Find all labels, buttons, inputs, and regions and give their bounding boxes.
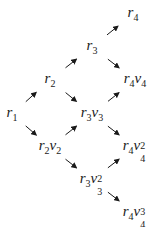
node-variable: v xyxy=(50,137,57,153)
node-variable-superscript: 2 xyxy=(97,174,102,184)
arrows-layer xyxy=(0,0,159,227)
arrow-r3-to-r4-icon xyxy=(107,26,118,35)
node-base-subscript: 3 xyxy=(92,45,97,56)
edge-group xyxy=(26,26,119,201)
arrow-r2v2-to-r3v3_2-icon xyxy=(66,159,77,168)
node-r1: r1 xyxy=(7,105,18,123)
arrow-r3v3_2-to-r4v4_2-icon xyxy=(108,159,119,168)
node-variable: v xyxy=(91,170,98,186)
arrow-r3v3-to-r4v4_2-icon xyxy=(108,126,119,135)
node-variable-subscript: 2 xyxy=(56,145,61,156)
node-base-subscript: 1 xyxy=(12,112,17,123)
node-variable: v xyxy=(92,104,99,120)
node-r4: r4 xyxy=(128,5,139,23)
node-base-subscript: 2 xyxy=(50,78,55,89)
arrow-r3-to-r4v4-icon xyxy=(108,59,119,68)
node-variable-subscript: 3 xyxy=(98,112,103,123)
node-r3: r3 xyxy=(87,38,98,56)
arrow-r2-to-r3-icon xyxy=(66,59,77,68)
node-variable: v xyxy=(135,70,142,86)
node-variable: v xyxy=(134,203,141,219)
arrow-r1-to-r2-icon xyxy=(26,92,36,101)
arrow-r2-to-r3v3-icon xyxy=(66,93,77,102)
node-variable-subscript: 4 xyxy=(140,154,145,164)
arrow-r1-to-r2v2-icon xyxy=(26,126,37,135)
node-r2v2: r2v2 xyxy=(39,138,62,156)
node-variable-superscript: 3 xyxy=(140,207,145,217)
node-r4v4: r4v4 xyxy=(124,71,147,89)
arrow-r2v2-to-r3v3-icon xyxy=(66,126,77,135)
arrow-r3v3_2-to-r4v4_3-icon xyxy=(108,192,119,201)
node-r3v3_2: r3v23 xyxy=(80,171,105,189)
node-variable-subscript: 3 xyxy=(97,187,102,197)
node-r4v4_3: r4v34 xyxy=(123,204,148,222)
node-r3v3: r3v3 xyxy=(81,105,104,123)
node-r4v4_2: r4v24 xyxy=(123,138,148,156)
node-r2: r2 xyxy=(45,71,56,89)
arrow-r3v3-to-r4v4-icon xyxy=(108,93,119,102)
node-variable: v xyxy=(134,137,141,153)
node-variable-superscript: 2 xyxy=(140,141,145,151)
node-variable-subscript: 4 xyxy=(140,220,145,227)
node-base-subscript: 4 xyxy=(133,12,138,23)
node-variable-subscript: 4 xyxy=(141,78,146,89)
